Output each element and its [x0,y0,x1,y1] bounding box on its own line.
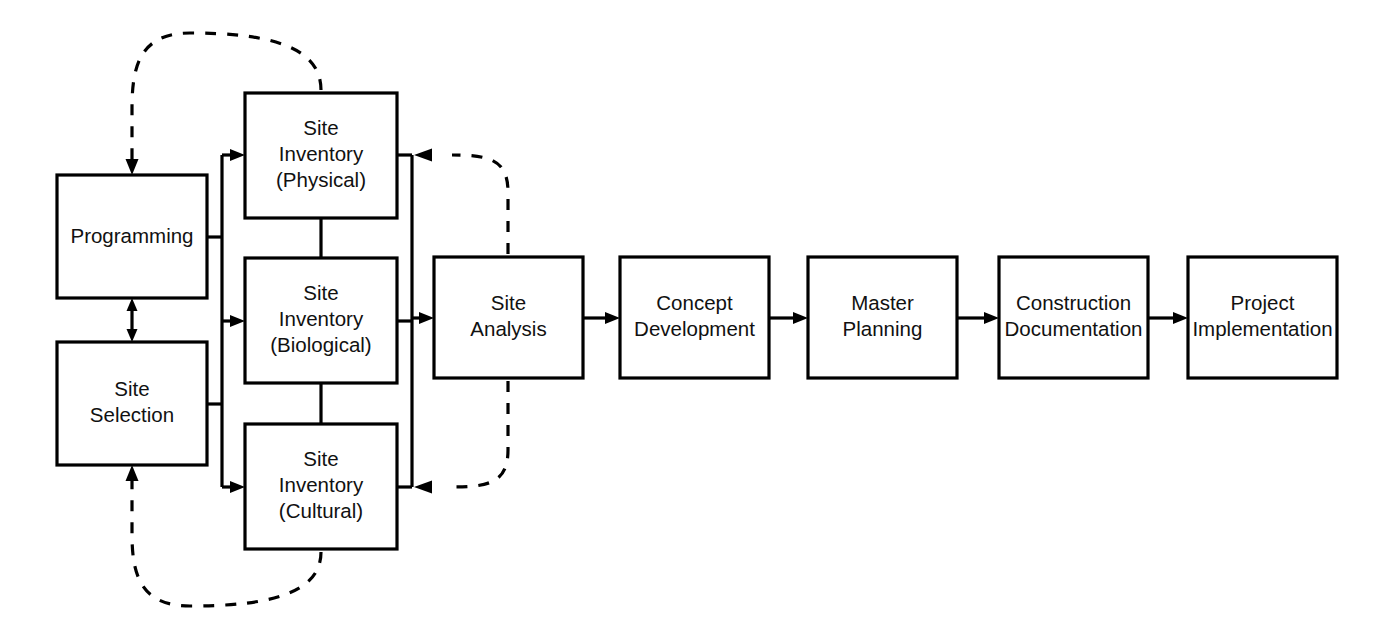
node-site-inventory-physical[interactable]: Site Inventory (Physical) [245,93,397,218]
node-construction-documentation-label-line2: Documentation [1005,317,1143,340]
node-site-inventory-biological-label-line3: (Biological) [270,333,371,356]
connector-master-planning-to-construction-documentation [957,312,999,324]
node-site-inventory-cultural-label-line3: (Cultural) [279,499,363,522]
node-site-inventory-physical-label-line2: Inventory [279,142,364,165]
flowchart-canvas: Programming Site Selection Site Inventor… [0,0,1391,626]
node-site-selection[interactable]: Site Selection [57,342,207,465]
node-site-selection-label-line1: Site [114,377,149,400]
node-site-inventory-biological-label-line1: Site [303,281,338,304]
node-site-inventory-physical-label-line1: Site [303,116,338,139]
node-site-inventory-biological[interactable]: Site Inventory (Biological) [245,258,397,383]
node-concept-development-label-line1: Concept [656,291,733,314]
node-site-selection-label-line2: Selection [90,403,174,426]
connector-programming-to-site-selection [127,298,138,342]
connector-site-analysis-feedback-to-cultural [414,381,508,494]
node-site-inventory-biological-label-line2: Inventory [279,307,364,330]
flowchart-diagram: Programming Site Selection Site Inventor… [0,0,1391,626]
connector-concept-development-to-master-planning [769,312,808,324]
node-site-analysis-label-line1: Site [491,291,526,314]
node-construction-documentation-label-line1: Construction [1016,291,1131,314]
connector-construction-documentation-to-project-implementation [1148,312,1188,324]
node-programming-label-line1: Programming [70,224,193,247]
node-site-analysis[interactable]: Site Analysis [434,257,583,378]
node-concept-development[interactable]: Concept Development [620,257,769,378]
node-programming[interactable]: Programming [57,175,207,298]
node-construction-documentation[interactable]: Construction Documentation [999,257,1148,378]
node-project-implementation-label-line1: Project [1231,291,1295,314]
node-master-planning-label-line1: Master [851,291,914,314]
node-master-planning-label-line2: Planning [843,317,923,340]
connector-inventories-to-site-analysis [397,155,434,487]
node-site-inventory-cultural-label-line1: Site [303,447,338,470]
node-concept-development-label-line2: Development [634,317,755,340]
node-site-inventory-cultural[interactable]: Site Inventory (Cultural) [245,424,397,549]
node-site-inventory-cultural-label-line2: Inventory [279,473,364,496]
node-site-inventory-physical-label-line3: (Physical) [276,168,366,191]
node-project-implementation[interactable]: Project Implementation [1188,257,1337,378]
node-project-implementation-label-line2: Implementation [1192,317,1332,340]
node-master-planning[interactable]: Master Planning [808,257,957,378]
connector-site-analysis-to-concept-development [583,312,620,324]
node-site-analysis-label-line2: Analysis [470,317,546,340]
connector-left-bus-fanout [207,149,245,493]
connector-site-analysis-feedback-to-physical [414,149,508,255]
